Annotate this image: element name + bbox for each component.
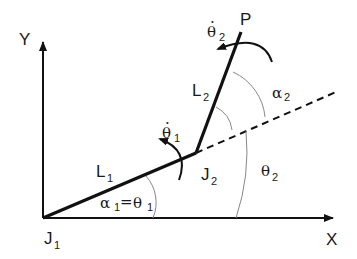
svg-text:J: J xyxy=(201,165,210,184)
link1-extension-dashed xyxy=(196,92,336,153)
joint-1-label: J 1 xyxy=(44,229,60,251)
alpha1-equals-theta1-label: α 1 = θ 1 xyxy=(100,193,153,213)
svg-text:1: 1 xyxy=(174,132,180,144)
svg-text:θ: θ xyxy=(261,162,270,180)
svg-text:1: 1 xyxy=(54,239,60,251)
svg-text:2: 2 xyxy=(211,175,217,187)
svg-text:2: 2 xyxy=(272,171,278,183)
x-axis-label: X xyxy=(326,230,337,249)
alpha2-arc xyxy=(233,72,265,117)
svg-text:·: · xyxy=(165,114,170,132)
svg-text:1: 1 xyxy=(147,201,153,213)
svg-text:2: 2 xyxy=(219,31,225,43)
manipulator-diagram: Y X J 1 J 2 P L 1 L 2 α 1 = θ 1 θ 2 α 2 … xyxy=(0,0,357,259)
svg-text:L: L xyxy=(192,81,201,100)
svg-text:·: · xyxy=(210,13,215,31)
theta2-label: θ 2 xyxy=(261,162,278,183)
link-1-label: L 1 xyxy=(96,162,113,184)
theta2-dot-rotation-arrow xyxy=(218,43,272,62)
endpoint-p-label: P xyxy=(240,10,251,29)
svg-text:2: 2 xyxy=(284,91,290,103)
svg-text:α: α xyxy=(272,84,282,102)
link-2-label: L 2 xyxy=(192,81,209,103)
svg-text:L: L xyxy=(96,162,105,181)
svg-text:=: = xyxy=(120,193,133,211)
theta1-dot-label: θ · 1 xyxy=(162,114,180,144)
link2-base-arc xyxy=(216,107,232,130)
svg-text:2: 2 xyxy=(203,91,209,103)
svg-text:J: J xyxy=(44,229,53,248)
svg-text:θ: θ xyxy=(133,194,142,212)
alpha2-label: α 2 xyxy=(272,84,290,103)
y-axis-label: Y xyxy=(19,30,30,49)
joint-2-label: J 2 xyxy=(201,165,217,187)
theta2-arc xyxy=(236,131,247,218)
theta2-dot-label: θ · 2 xyxy=(207,13,225,43)
svg-text:1: 1 xyxy=(107,172,113,184)
svg-text:α: α xyxy=(100,194,110,212)
